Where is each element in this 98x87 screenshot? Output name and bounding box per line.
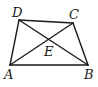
label-d: D: [11, 5, 23, 20]
label-c: C: [69, 7, 79, 22]
label-a: A: [3, 67, 13, 82]
side-bc: [73, 23, 88, 65]
side-cd: [19, 20, 73, 23]
diagonal-bd: [19, 20, 88, 65]
trapezoid-diagram: D C E A B: [0, 0, 98, 87]
label-b: B: [83, 67, 94, 82]
diagonal-ac: [10, 23, 73, 65]
label-e: E: [43, 44, 54, 59]
side-da: [10, 20, 19, 65]
